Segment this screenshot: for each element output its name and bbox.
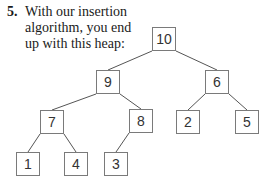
heap-node-6: 6 — [205, 70, 229, 94]
heap-node-9: 9 — [96, 70, 120, 94]
heap-node-3: 3 — [104, 152, 128, 176]
heap-node-10: 10 — [152, 27, 176, 51]
heap-edge — [108, 51, 152, 70]
heap-edge — [176, 51, 217, 70]
heap-node-4: 4 — [64, 152, 88, 176]
heap-edge — [229, 94, 247, 110]
heap-node-7: 7 — [40, 110, 64, 134]
heap-edge — [116, 133, 129, 152]
heap-node-5: 5 — [235, 110, 259, 134]
heap-node-2: 2 — [176, 110, 200, 134]
heap-edge — [188, 94, 205, 110]
heap-edge — [28, 134, 40, 152]
heap-edge — [120, 94, 141, 109]
heap-edge — [64, 134, 76, 152]
heap-edges — [0, 0, 277, 186]
heap-edge — [52, 94, 96, 110]
heap-node-8: 8 — [129, 109, 153, 133]
heap-node-1: 1 — [16, 152, 40, 176]
